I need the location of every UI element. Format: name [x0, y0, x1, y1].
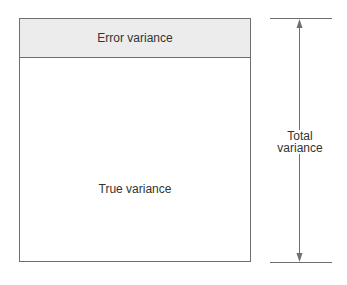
error-variance-label: Error variance	[97, 31, 172, 45]
total-variance-label: Total variance	[276, 130, 324, 154]
variance-box: Error variance True variance	[19, 18, 251, 262]
true-variance-label: True variance	[20, 182, 250, 196]
total-label-line2: variance	[276, 142, 324, 154]
error-variance-region: Error variance	[20, 19, 250, 58]
